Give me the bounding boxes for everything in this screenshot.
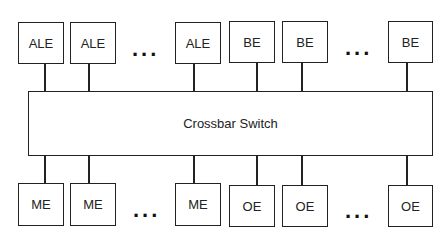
be-label: BE [402, 35, 419, 50]
crossbar-switch-label: Crossbar Switch [183, 116, 278, 131]
connector [256, 62, 258, 92]
connector [88, 63, 90, 92]
be-box-2: BE [282, 21, 328, 63]
oe-label: OE [401, 199, 420, 214]
connector [44, 155, 46, 184]
be-box-n: BE [388, 21, 433, 63]
connector [406, 62, 408, 92]
connector [301, 155, 303, 185]
me-label: ME [83, 197, 103, 212]
ale-label: ALE [29, 36, 54, 51]
connector [193, 63, 195, 92]
ale-box-n: ALE [175, 22, 221, 64]
top-right-ellipsis: ... [345, 37, 372, 59]
ale-label: ALE [186, 36, 211, 51]
oe-box-n: OE [388, 185, 433, 227]
bottom-right-ellipsis: ... [345, 200, 372, 222]
be-label: BE [296, 35, 313, 50]
oe-box-2: OE [282, 185, 328, 227]
bottom-left-ellipsis: ... [133, 199, 160, 221]
connector [88, 155, 90, 184]
me-box-1: ME [18, 183, 64, 226]
crossbar-switch: Crossbar Switch [28, 91, 433, 156]
be-box-1: BE [229, 21, 275, 63]
me-box-n: ME [175, 183, 221, 226]
me-box-2: ME [70, 183, 116, 226]
me-label: ME [188, 197, 208, 212]
connector [301, 62, 303, 92]
oe-box-1: OE [229, 185, 275, 227]
be-label: BE [243, 35, 260, 50]
oe-label: OE [243, 199, 262, 214]
connector [256, 155, 258, 185]
ale-box-2: ALE [70, 22, 116, 64]
connector [44, 63, 46, 92]
connector [406, 155, 408, 185]
oe-label: OE [296, 199, 315, 214]
top-left-ellipsis: ... [132, 38, 159, 60]
ale-label: ALE [81, 36, 106, 51]
me-label: ME [31, 197, 51, 212]
connector [193, 155, 195, 184]
ale-box-1: ALE [18, 22, 64, 64]
